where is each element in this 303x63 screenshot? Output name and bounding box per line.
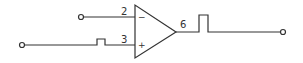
pin-label-6: 6	[180, 19, 186, 30]
output-terminal	[281, 30, 286, 35]
noninverting-sign: +	[138, 40, 146, 50]
circuit-svg: 2 3 6 − +	[0, 0, 303, 63]
pin-label-2: 2	[121, 6, 127, 17]
pin-label-3: 3	[121, 34, 127, 45]
inverting-input-terminal	[79, 15, 84, 20]
non-inverting-input-terminal	[20, 43, 25, 48]
non-inverting-input-wire-with-pulse	[25, 39, 136, 45]
op-amp-circuit-diagram: 2 3 6 − +	[0, 0, 303, 63]
output-wire-with-pulse	[176, 15, 281, 32]
inverting-sign: −	[138, 12, 146, 22]
